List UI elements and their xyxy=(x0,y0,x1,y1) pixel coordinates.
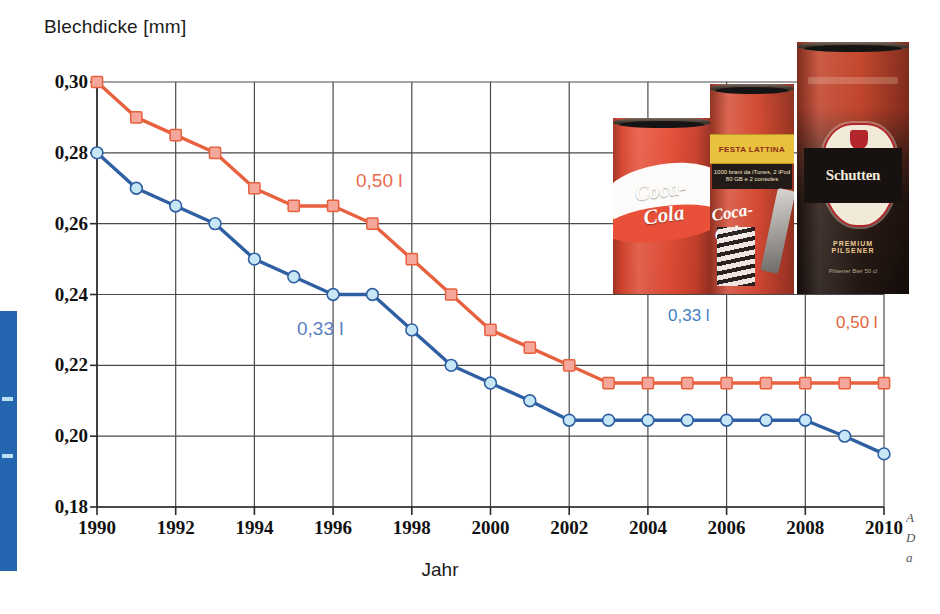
x-tick-label: 2004 xyxy=(613,517,683,539)
can-rim-inner xyxy=(715,87,789,94)
can-promo-subband-text: 1000 brani da iTunes, 2 iPod 80 GB e 2 c… xyxy=(712,164,793,189)
can-legend-label-050: 0,50 l xyxy=(836,313,878,333)
x-tick-label: 1998 xyxy=(377,517,447,539)
can-promo-band: FESTA LATTINA xyxy=(710,134,794,163)
edge-caption: ADa xyxy=(906,508,940,568)
series-label-050: 0,50 l xyxy=(356,170,402,192)
can-promo-subband: 1000 brani da iTunes, 2 iPod 80 GB e 2 c… xyxy=(712,164,793,189)
can-rim-inner xyxy=(804,45,903,52)
can-body: Bier Schutten PREMIUM PILSENER Pilsener … xyxy=(797,42,909,294)
can-gadget-graphic xyxy=(760,188,794,274)
can-legend-label-033: 0,33 l xyxy=(668,306,710,326)
x-tick-label: 2000 xyxy=(456,517,526,539)
x-tick-label: 2008 xyxy=(770,517,840,539)
can-body: Coca-Cola xyxy=(613,118,711,294)
coca-cola-can-short-image: Coca-Cola xyxy=(613,118,711,294)
x-tick-label: 2006 xyxy=(692,517,762,539)
can-crest-icon xyxy=(850,130,868,150)
can-body: FESTA LATTINA 1000 brani da iTunes, 2 iP… xyxy=(710,84,794,294)
edge-caption-line: a xyxy=(906,548,940,568)
x-tick-label: 1994 xyxy=(219,517,289,539)
coca-cola-can-tall-image: FESTA LATTINA 1000 brani da iTunes, 2 iP… xyxy=(710,84,794,294)
can-foot-text: Pilsener Bier 50 cl xyxy=(817,268,889,274)
can-promo-band-text: FESTA LATTINA xyxy=(710,135,794,162)
x-tick-label: 1992 xyxy=(141,517,211,539)
can-rim-inner xyxy=(619,121,705,128)
edge-caption-line: D xyxy=(906,528,940,548)
can-keyboard-graphic xyxy=(717,227,756,286)
can-arc-text: PREMIUM PILSENER xyxy=(810,240,895,254)
x-tick-label: 1996 xyxy=(298,517,368,539)
edge-caption-line: A xyxy=(906,508,940,528)
x-tick-label: 2002 xyxy=(534,517,604,539)
can-top-stripe xyxy=(808,77,898,84)
schutten-beer-can-image: Bier Schutten PREMIUM PILSENER Pilsener … xyxy=(797,42,909,294)
series-label-033: 0,33 l xyxy=(297,318,343,340)
x-tick-label: 1990 xyxy=(62,517,132,539)
can-brand-name: Schutten xyxy=(804,148,903,203)
